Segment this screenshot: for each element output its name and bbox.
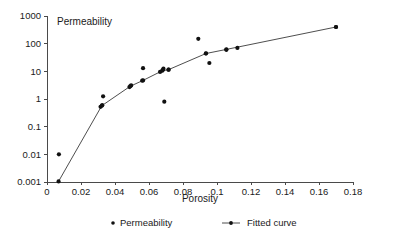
- fitted-curve-point: [56, 179, 60, 183]
- legend-label-fitted-curve: Fitted curve: [247, 217, 297, 228]
- data-point: [196, 37, 200, 41]
- legend-marker-permeability: [111, 221, 115, 225]
- data-point: [235, 46, 239, 50]
- y-axis: 0.0010.010.11101001000: [17, 10, 47, 187]
- y-tick-label: 10: [30, 66, 41, 77]
- data-point: [161, 67, 165, 71]
- x-tick-label: 0.02: [72, 186, 91, 197]
- data-point: [224, 48, 228, 52]
- x-axis-title: Porosity: [182, 193, 218, 204]
- data-point: [141, 66, 145, 70]
- data-point: [129, 83, 133, 87]
- y-tick-label: 1: [36, 93, 41, 104]
- chart-legend: Permeability Fitted curve: [111, 217, 296, 228]
- x-tick-label: 0.14: [276, 186, 295, 197]
- y-tick-label: 100: [25, 38, 41, 49]
- x-tick-label: 0.18: [344, 186, 363, 197]
- y-axis-tick-labels: 0.0010.010.11101001000: [17, 10, 41, 187]
- chart-canvas: 0.0010.010.11101001000 00.020.040.060.08…: [0, 0, 402, 239]
- data-point: [100, 103, 104, 107]
- legend-label-permeability: Permeability: [120, 217, 173, 228]
- plot-title: Permeability: [57, 16, 112, 27]
- permeability-data-points: [57, 25, 338, 157]
- data-point: [166, 68, 170, 72]
- y-tick-label: 1000: [20, 10, 41, 21]
- data-point: [162, 100, 166, 104]
- data-point: [140, 79, 144, 83]
- y-tick-label: 0.01: [23, 149, 42, 160]
- x-tick-label: 0.16: [310, 186, 329, 197]
- data-point: [204, 51, 208, 55]
- permeability-porosity-chart: 0.0010.010.11101001000 00.020.040.060.08…: [0, 0, 402, 239]
- x-tick-label: 0.12: [242, 186, 261, 197]
- fitted-curve-line: [59, 27, 336, 181]
- fitted-curve-markers: [56, 25, 338, 184]
- data-point: [334, 25, 338, 29]
- x-tick-label: 0.04: [106, 186, 125, 197]
- data-point: [101, 94, 105, 98]
- x-tick-label: 0: [44, 186, 49, 197]
- data-point: [57, 152, 61, 156]
- x-tick-label: 0.06: [140, 186, 159, 197]
- y-tick-label: 0.001: [17, 176, 41, 187]
- y-tick-label: 0.1: [28, 121, 41, 132]
- data-point: [207, 61, 211, 65]
- legend-marker-fitted-curve: [229, 221, 233, 225]
